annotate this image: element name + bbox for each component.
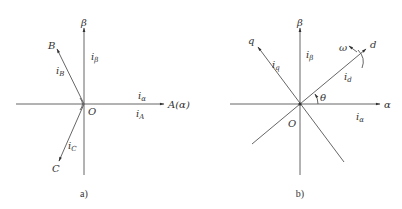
coordinate-transform-figure: β A(α) B C O iβ iB iα iA iC a) β α d q ω… (0, 0, 402, 209)
i-beta-label-b: iβ (306, 49, 313, 62)
i-beta-label-a: iβ (91, 51, 98, 64)
alpha-label-b: α (384, 99, 391, 110)
c-label: C (52, 163, 60, 174)
theta-arc (315, 94, 318, 104)
theta-label: θ (320, 92, 326, 103)
origin-label-a: O (88, 106, 96, 117)
i-q-label: iq (272, 59, 280, 72)
beta-label-a: β (80, 17, 87, 28)
q-label: q (248, 35, 254, 46)
i-b-label: iB (56, 65, 64, 78)
diagram-a: β A(α) B C O iβ iB iα iA iC a) (16, 17, 190, 200)
d-label: d (370, 39, 376, 50)
caption-b: b) (296, 188, 304, 200)
i-a-label: iA (136, 108, 144, 121)
omega-arc (358, 50, 363, 68)
i-alpha-label-a: iα (138, 90, 146, 103)
i-d-label: id (344, 71, 352, 84)
omega-label: ω (339, 42, 347, 53)
i-c-label: iC (68, 140, 77, 153)
caption-a: a) (80, 188, 88, 200)
origin-dot-b (298, 102, 301, 105)
b-label: B (47, 40, 55, 51)
beta-label-b: β (296, 17, 303, 28)
origin-label-b: O (288, 118, 296, 129)
omega-arrow (349, 46, 357, 52)
i-alpha-label-b: iα (356, 111, 364, 124)
d-axis (252, 49, 366, 144)
alpha-label-a: A(α) (167, 99, 190, 110)
diagram-b: β α d q ω θ O iβ iq id iα b) (230, 17, 391, 200)
